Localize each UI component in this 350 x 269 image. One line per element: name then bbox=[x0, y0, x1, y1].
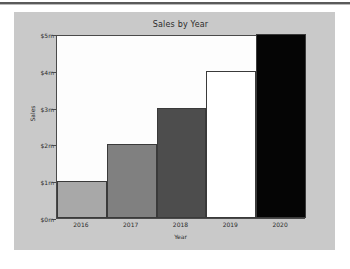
y-tick-mark-4 bbox=[52, 72, 56, 73]
bar-2020 bbox=[256, 34, 306, 218]
chart-figure: Sales by Year Sales $0m$1m$2m$3m$4m$5m 2… bbox=[14, 12, 335, 250]
chart-title: Sales by Year bbox=[56, 20, 305, 29]
y-tick-mark-0 bbox=[52, 219, 56, 220]
y-tick-label-4: $4m bbox=[32, 68, 54, 75]
y-tick-mark-3 bbox=[52, 109, 56, 110]
x-tick-label-2018: 2018 bbox=[173, 221, 188, 228]
plot-area bbox=[56, 35, 305, 219]
y-axis-label: Sales bbox=[29, 84, 36, 144]
y-tick-label-3: $3m bbox=[32, 105, 54, 112]
y-tick-mark-5 bbox=[52, 35, 56, 36]
top-divider-rule-shadow bbox=[0, 4, 350, 5]
x-tick-label-2020: 2020 bbox=[272, 221, 287, 228]
y-tick-label-2: $2m bbox=[32, 142, 54, 149]
y-tick-label-5: $5m bbox=[32, 32, 54, 39]
y-tick-mark-1 bbox=[52, 182, 56, 183]
y-tick-mark-2 bbox=[52, 145, 56, 146]
bar-2019 bbox=[206, 71, 256, 218]
bar-2016 bbox=[57, 181, 107, 218]
x-tick-label-2016: 2016 bbox=[73, 221, 88, 228]
x-tick-label-2019: 2019 bbox=[223, 221, 238, 228]
y-tick-label-0: $0m bbox=[32, 216, 54, 223]
x-axis-label: Year bbox=[56, 233, 305, 240]
bar-2017 bbox=[107, 144, 157, 218]
x-tick-label-2017: 2017 bbox=[123, 221, 138, 228]
y-tick-label-1: $1m bbox=[32, 179, 54, 186]
bar-2018 bbox=[157, 108, 207, 218]
